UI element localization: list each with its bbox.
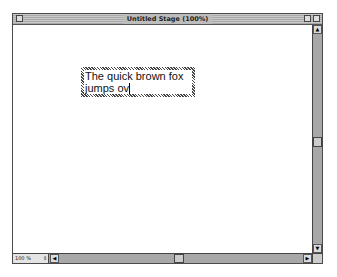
close-box-icon[interactable] (16, 15, 23, 22)
text-line-2: jumps ov (84, 82, 192, 94)
zoom-stepper-icon[interactable]: ⇕ (42, 255, 48, 262)
scroll-down-arrow-icon[interactable]: ▼ (313, 244, 322, 253)
title-bar[interactable]: Untitled Stage (100%) (13, 14, 322, 25)
scroll-up-arrow-icon[interactable]: ▲ (313, 25, 322, 34)
zoom-level-value: 100 % (15, 255, 31, 261)
collapse-box-icon[interactable] (313, 15, 320, 22)
horizontal-scroll-thumb[interactable] (174, 254, 184, 263)
vertical-scrollbar[interactable]: ▲ ▼ (312, 25, 322, 253)
horizontal-scrollbar[interactable]: 100 % ⇕ ◀ ▶ (13, 253, 312, 263)
zoom-level-field[interactable]: 100 % ⇕ (13, 254, 49, 263)
stage-canvas[interactable]: The quick brown fox jumps ov (13, 25, 312, 253)
scroll-right-arrow-icon[interactable]: ▶ (303, 254, 312, 263)
vertical-scroll-thumb[interactable] (313, 137, 322, 147)
text-line-1: The quick brown fox (84, 70, 192, 82)
resize-grip[interactable] (312, 253, 322, 263)
scroll-left-arrow-icon[interactable]: ◀ (50, 254, 59, 263)
text-cursor (129, 83, 130, 94)
text-line-2-content: jumps ov (85, 82, 129, 94)
zoom-box-icon[interactable] (304, 15, 311, 22)
window-title: Untitled Stage (100%) (123, 14, 212, 24)
stage-window: Untitled Stage (100%) The quick brown fo… (12, 13, 323, 264)
text-field-sprite[interactable]: The quick brown fox jumps ov (81, 67, 195, 97)
